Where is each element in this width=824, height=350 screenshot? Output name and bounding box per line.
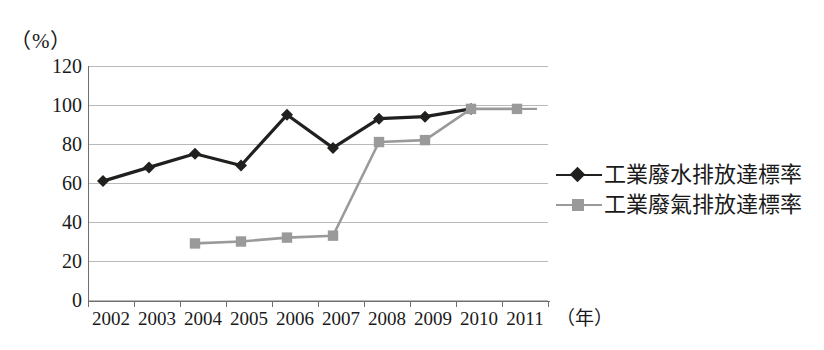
chart-legend: 工業廢水排放達標率 工業廢氣排放達標率 xyxy=(556,160,822,220)
data-point-marker xyxy=(512,104,522,114)
data-point-marker xyxy=(282,232,292,242)
diamond-marker-icon xyxy=(556,166,602,184)
series-waste-gas xyxy=(190,104,537,249)
data-point-marker xyxy=(236,236,246,246)
series-line xyxy=(195,109,517,244)
legend-item-waste-water[interactable]: 工業廢水排放達標率 xyxy=(556,160,822,190)
data-point-marker xyxy=(374,137,384,147)
legend-label-waste-water: 工業廢水排放達標率 xyxy=(604,163,802,187)
data-point-marker xyxy=(466,104,476,114)
data-point-marker xyxy=(97,175,109,187)
data-point-marker xyxy=(420,135,430,145)
data-point-marker xyxy=(419,111,431,123)
data-point-marker xyxy=(143,161,155,173)
data-point-marker xyxy=(190,238,200,248)
line-chart: （%） 120100806040200 20022003200420052006… xyxy=(0,0,824,350)
data-point-marker xyxy=(328,230,338,240)
legend-label-waste-gas: 工業廢氣排放達標率 xyxy=(604,193,802,217)
legend-item-waste-gas[interactable]: 工業廢氣排放達標率 xyxy=(556,190,822,220)
square-marker-icon xyxy=(556,196,602,214)
data-point-marker xyxy=(189,148,201,160)
